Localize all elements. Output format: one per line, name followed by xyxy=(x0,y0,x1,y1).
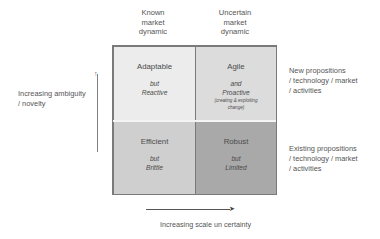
row-label-line: New propositions xyxy=(289,66,358,76)
quadrant-title: Efficient xyxy=(114,137,195,146)
quadrant-note: (creating & exploiting xyxy=(196,97,276,104)
column-header-known: Known market dynamic xyxy=(118,8,188,37)
column-header-line: Known xyxy=(118,8,188,18)
quadrant-robust: Robust but Limited xyxy=(196,122,276,194)
quadrant-connector: but xyxy=(114,79,195,88)
row-label-line: / activities xyxy=(289,86,358,96)
quadrant-note: change) xyxy=(196,104,276,111)
quadrant-title: Agile xyxy=(196,62,276,71)
quadrant-agile: Agile and Proactive (creating & exploiti… xyxy=(196,47,276,120)
quadrant-adaptable: Adaptable but Reactive xyxy=(114,47,195,120)
quadrant-quality: Limited xyxy=(196,163,276,172)
row-label-line: / activities xyxy=(289,164,358,174)
column-header-line: market xyxy=(118,18,188,28)
quadrant-title: Adaptable xyxy=(114,62,195,71)
row-label-line: / technology / market xyxy=(289,76,358,86)
column-header-line: Uncertain xyxy=(200,8,270,18)
row-label-existing: Existing propositions / technology / mar… xyxy=(289,144,358,174)
column-header-line: dynamic xyxy=(118,27,188,37)
quadrant-quality: Reactive xyxy=(114,88,195,97)
y-axis-label: Increasing ambiguity / novelty xyxy=(18,89,86,109)
x-axis-arrow-line xyxy=(146,209,230,210)
row-label-line: / technology / market xyxy=(289,154,358,164)
quadrant-connector: but xyxy=(114,154,195,163)
column-header-line: market xyxy=(200,18,270,28)
row-label-new: New propositions / technology / market /… xyxy=(289,66,358,96)
quadrant-quality: Proactive xyxy=(196,88,276,97)
up-arrow-icon: ↑ xyxy=(94,70,98,77)
x-axis-label: Increasing scale un certainty xyxy=(160,220,251,229)
column-header-line: dynamic xyxy=(200,27,270,37)
quadrant-connector: but xyxy=(196,154,276,163)
quadrant-efficient: Efficient but Brittle xyxy=(114,122,195,194)
matrix-grid: Adaptable but Reactive Agile and Proacti… xyxy=(112,45,277,195)
column-header-uncertain: Uncertain market dynamic xyxy=(200,8,270,37)
y-axis-label-line: Increasing ambiguity xyxy=(18,89,86,99)
quadrant-connector: and xyxy=(196,79,276,88)
y-axis-label-line: / novelty xyxy=(18,99,86,109)
y-axis-arrow-line xyxy=(97,74,98,152)
quadrant-title: Robust xyxy=(196,137,276,146)
quadrant-quality: Brittle xyxy=(114,163,195,172)
row-label-line: Existing propositions xyxy=(289,144,358,154)
right-arrow-icon: ➤ xyxy=(229,205,235,213)
